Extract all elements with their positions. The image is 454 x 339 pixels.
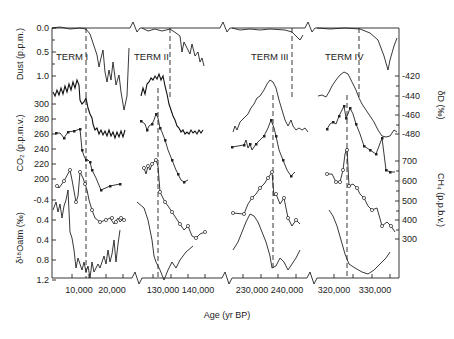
term-label: TERM I [56,51,88,62]
co2-tick: 280 [34,114,49,124]
d18o-series [53,190,390,280]
paleoclimate-chart: 10,000 20,000 130,000 140,000 230,000 24… [0,0,454,339]
x-tick: 240,000 [271,285,304,295]
dd-axis-label: δD (‰) [436,90,446,119]
co2-tick: 240 [34,144,49,154]
co2-axis-label: CO₂ (p.p.m.v.) [15,115,25,172]
dust-top-axis [52,22,399,32]
ch4-series [55,148,395,240]
x-axis-label: Age (yr BP) [204,310,251,320]
x-tick: 140,000 [182,285,215,295]
x-tick: 320,000 [318,285,351,295]
d18o-axis-label: δ¹⁸Oatm (‰) [15,212,25,263]
co2-tick: 260 [34,129,49,139]
dust-tick: 0.0 [36,23,49,33]
ch4-tick: 700 [402,156,417,166]
dust-tick: 0.5 [36,47,49,57]
term-label: TERM IV [325,51,364,62]
dust-axis-label: Dust (p.p.m.) [15,28,25,80]
dd-tick: -420 [402,71,420,81]
ch4-tick: 500 [402,196,417,206]
dd-tick: -460 [402,110,420,120]
x-tick: 20,000 [98,285,126,295]
dd-tick: -440 [402,91,420,101]
x-tick: 130,000 [147,285,180,295]
d18o-tick: 0.8 [36,255,49,265]
term-label: TERM II [134,51,169,62]
d18o-tick: 1.2 [36,275,49,285]
dd-tick: -480 [402,129,420,139]
d18o-tick: 0.4 [36,215,49,225]
x-tick: 330,000 [359,285,392,295]
co2-tick: 220 [34,159,49,169]
co2-tick: 200 [34,174,49,184]
x-tick: 230,000 [236,285,269,295]
term-label: TERM III [251,51,288,62]
termination-lines [86,28,359,278]
ch4-tick: 300 [402,234,417,244]
dust-series [52,27,397,110]
d18o-tick: 0.4 [36,235,49,245]
ch4-axis-label: CH₄ (p.p.b.v.) [436,173,446,227]
ch4-tick: 400 [402,215,417,225]
co2-tick: 300 [34,99,49,109]
d18o-tick: -0.4 [33,195,49,205]
x-tick: 10,000 [65,285,93,295]
ch4-tick: 600 [402,176,417,186]
dust-tick: 1.0 [36,71,49,81]
co2-series [55,105,395,192]
